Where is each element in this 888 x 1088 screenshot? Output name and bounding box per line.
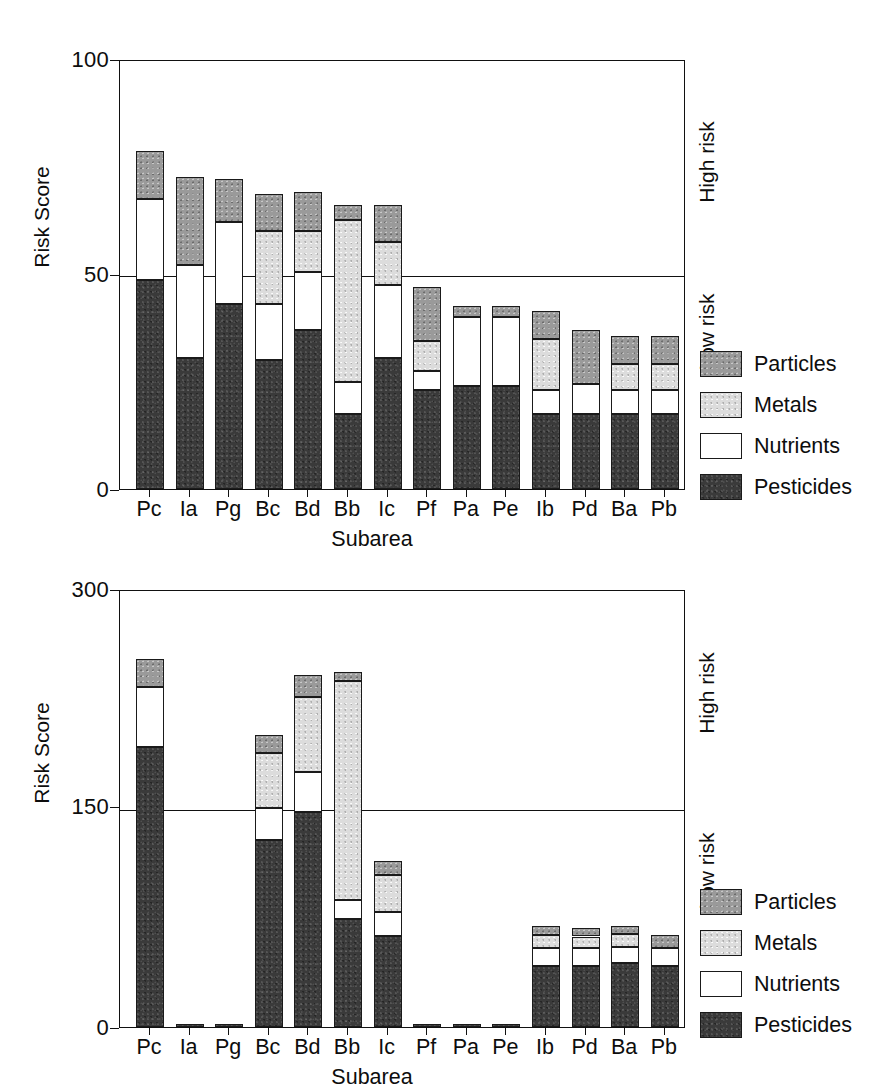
x-tick-mark <box>624 490 625 497</box>
bar-pe <box>492 1024 520 1027</box>
bar-segment-particles <box>136 151 164 198</box>
legend-swatch-metals <box>700 392 742 418</box>
bar-segment-nutrients <box>611 947 639 963</box>
legend-label: Nutrients <box>754 970 840 998</box>
x-tick-mark <box>307 490 308 497</box>
bar-segment-particles <box>413 287 441 341</box>
bar-segment-nutrients <box>532 390 560 414</box>
bar-segment-pesticides <box>413 1024 441 1027</box>
bar-segment-particles <box>334 672 362 681</box>
x-tick-mark <box>585 1028 586 1035</box>
bar-segment-nutrients <box>651 948 679 966</box>
x-tick-mark <box>347 490 348 497</box>
x-tick-mark <box>664 490 665 497</box>
y-tick-label: 0 <box>49 1017 109 1039</box>
bar-segment-nutrients <box>136 199 164 281</box>
bar-segment-nutrients <box>492 317 520 386</box>
y-tick-mark <box>110 275 119 276</box>
bar-segment-nutrients <box>532 948 560 966</box>
bar-segment-pesticides <box>651 414 679 489</box>
legend-label: Nutrients <box>754 432 840 460</box>
bar-segment-particles <box>611 926 639 933</box>
y-tick-label: 0 <box>49 479 109 501</box>
bar-segment-nutrients <box>651 390 679 414</box>
bar-segment-metals <box>255 753 283 808</box>
bar-segment-particles <box>374 861 402 876</box>
bar-bb <box>334 205 362 489</box>
bar-segment-pesticides <box>176 1024 204 1027</box>
bar-segment-pesticides <box>651 966 679 1027</box>
bar-ia <box>176 177 204 489</box>
x-tick-mark <box>426 490 427 497</box>
x-tick-mark <box>189 490 190 497</box>
bar-segment-particles <box>572 330 600 384</box>
legend-label: Pesticides <box>754 473 852 501</box>
bar-pa <box>453 1024 481 1027</box>
bar-ba <box>611 926 639 1027</box>
y-tick-label: 300 <box>49 579 109 601</box>
x-tick-mark <box>228 1028 229 1035</box>
bar-segment-particles <box>176 177 204 265</box>
y-tick-mark <box>110 60 119 61</box>
bar-segment-particles <box>255 735 283 753</box>
bar-segment-nutrients <box>572 948 600 966</box>
bar-segment-metals <box>294 231 322 272</box>
x-tick-mark <box>466 490 467 497</box>
bar-segment-particles <box>492 306 520 317</box>
bar-segment-pesticides <box>374 358 402 489</box>
y-tick-mark <box>110 490 119 491</box>
bar-segment-particles <box>453 306 481 317</box>
bar-segment-pesticides <box>492 386 520 489</box>
bar-segment-pesticides <box>453 1024 481 1027</box>
bar-segment-pesticides <box>215 304 243 489</box>
bar-segment-metals <box>374 242 402 285</box>
x-tick-mark <box>466 1028 467 1035</box>
bar-segment-metals <box>572 937 600 949</box>
bar-segment-nutrients <box>334 382 362 414</box>
y-axis-title: Risk Score <box>30 157 54 277</box>
bar-segment-pesticides <box>294 812 322 1027</box>
bar-segment-pesticides <box>136 747 164 1027</box>
bar-segment-pesticides <box>255 360 283 489</box>
x-tick-mark <box>387 1028 388 1035</box>
bar-pb <box>651 935 679 1027</box>
bar-segment-nutrients <box>413 371 441 390</box>
bar-segment-pesticides <box>215 1024 243 1027</box>
bar-pd <box>572 928 600 1027</box>
bar-segment-nutrients <box>334 900 362 919</box>
bar-segment-nutrients <box>572 384 600 414</box>
high-risk-label: High risk <box>695 628 719 758</box>
bar-segment-particles <box>651 935 679 948</box>
y-tick-label: 150 <box>49 796 109 818</box>
x-tick-mark <box>307 1028 308 1035</box>
legend-swatch-nutrients <box>700 433 742 459</box>
bar-segment-particles <box>255 194 283 231</box>
bar-segment-pesticides <box>492 1024 520 1027</box>
bar-pb <box>651 336 679 489</box>
bar-segment-metals <box>413 341 441 371</box>
bar-segment-particles <box>572 928 600 937</box>
legend-label: Particles <box>754 350 836 378</box>
bar-segment-particles <box>374 205 402 242</box>
bar-segment-particles <box>334 205 362 220</box>
legend-label: Metals <box>754 929 817 957</box>
bar-bb <box>334 672 362 1027</box>
bar-segment-nutrients <box>136 687 164 747</box>
bar-segment-metals <box>255 231 283 304</box>
x-tick-mark <box>545 1028 546 1035</box>
bar-segment-metals <box>611 934 639 947</box>
bar-segment-pesticides <box>374 936 402 1027</box>
bar-segment-pesticides <box>255 840 283 1027</box>
bar-segment-nutrients <box>294 772 322 813</box>
bar-segment-nutrients <box>255 304 283 360</box>
legend-swatch-pesticides <box>700 1012 742 1038</box>
bar-ic <box>374 861 402 1027</box>
bar-segment-metals <box>334 681 362 900</box>
y-tick-mark <box>110 807 119 808</box>
legend-swatch-particles <box>700 351 742 377</box>
x-tick-mark <box>505 490 506 497</box>
bar-segment-pesticides <box>611 963 639 1027</box>
bar-segment-pesticides <box>611 414 639 489</box>
low-risk-label: Low risk <box>695 806 719 936</box>
y-tick-label: 50 <box>49 264 109 286</box>
